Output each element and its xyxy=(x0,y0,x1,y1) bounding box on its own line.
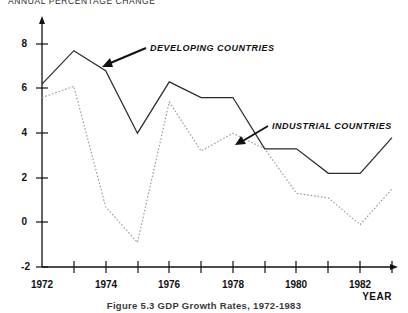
y-axis-ticks: 8 6 4 2 0 -2 xyxy=(21,38,48,272)
annotation-label-developing: DEVELOPING COUNTRIES xyxy=(150,43,275,53)
leader-line-industrial xyxy=(241,126,268,142)
x-axis-arrow-icon xyxy=(390,264,398,270)
x-tick-label-1972: 1972 xyxy=(31,279,54,290)
y-tick-label-4: 4 xyxy=(21,127,27,138)
y-tick-label-6: 6 xyxy=(21,82,27,93)
figure-caption: Figure 5.3 GDP Growth Rates, 1972-1983 xyxy=(0,300,408,311)
figure-container: ANNUAL PERCENTAGE CHANGE 8 6 4 2 0 -2 xyxy=(0,0,408,313)
x-tick-label-1976: 1976 xyxy=(158,279,181,290)
annotation-label-industrial: INDUSTRIAL COUNTRIES xyxy=(272,121,392,131)
series-line-industrial-countries xyxy=(42,86,392,242)
x-tick-label-1978: 1978 xyxy=(222,279,245,290)
y-tick-label-2: 2 xyxy=(21,172,27,183)
series-line-developing-countries xyxy=(42,51,392,174)
y-tick-label-minus2: -2 xyxy=(21,261,30,272)
annotation-developing-countries: DEVELOPING COUNTRIES xyxy=(102,43,275,67)
x-tick-label-1974: 1974 xyxy=(95,279,118,290)
leader-arrow-developing-icon xyxy=(102,58,113,67)
y-tick-label-0: 0 xyxy=(21,216,27,227)
x-tick-label-1980: 1980 xyxy=(285,279,308,290)
annotation-industrial-countries: INDUSTRIAL COUNTRIES xyxy=(235,121,392,145)
chart-series-group xyxy=(42,51,392,243)
x-tick-label-1982: 1982 xyxy=(349,279,372,290)
leader-line-developing xyxy=(108,48,146,64)
line-chart-plot: 8 6 4 2 0 -2 1972 1974 1976 1978 1980 19… xyxy=(0,0,408,313)
chart-axes xyxy=(39,16,398,270)
y-axis-arrow-icon xyxy=(39,16,45,24)
y-tick-label-8: 8 xyxy=(21,38,27,49)
